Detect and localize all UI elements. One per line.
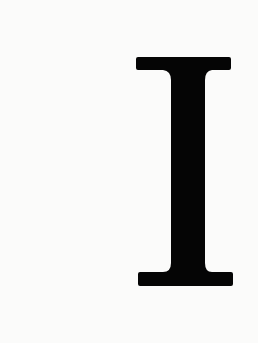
letter-i-glyph: I	[0, 0, 258, 343]
letter-i-shape	[136, 57, 233, 286]
